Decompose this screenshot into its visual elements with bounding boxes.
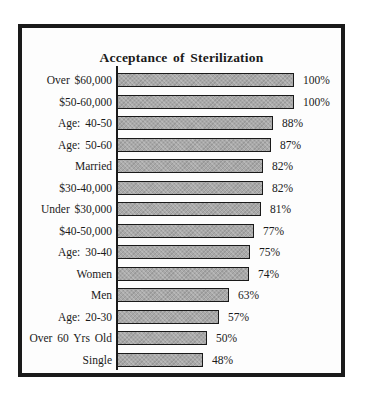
category-label: Single [83,354,112,366]
category-label: Age: 30-40 [58,246,112,258]
bar [117,159,263,173]
bar [117,245,250,259]
bar-row: Women74% [22,267,341,283]
category-label: Under $30,000 [41,203,112,215]
category-label: Married [75,160,112,172]
bar-row: $30-40,00082% [22,181,341,197]
bar [117,73,294,87]
category-label: $50-60,000 [59,96,112,108]
bar [117,353,203,367]
bar [117,116,273,130]
bar [117,267,249,281]
bar-row: $50-60,000100% [22,95,341,111]
value-label: 100% [303,96,330,108]
category-label: $40-50,000 [59,225,112,237]
bar-row: Single48% [22,353,341,369]
bar-row: Married82% [22,159,341,175]
category-label: Women [77,268,112,280]
category-label: Age: 50-60 [58,139,112,151]
bar [117,202,261,216]
value-label: 48% [212,354,233,366]
bar-row: Under $30,00081% [22,202,341,218]
value-label: 77% [263,225,284,237]
category-label: $30-40,000 [59,182,112,194]
value-label: 82% [272,182,293,194]
bar-row: Men63% [22,288,341,304]
value-label: 75% [259,246,280,258]
value-label: 82% [272,160,293,172]
value-label: 74% [258,268,279,280]
category-label: Age: 40-50 [58,117,112,129]
category-label: Age: 20-30 [58,311,112,323]
bar [117,138,271,152]
chart-title: Acceptance of Sterilization [22,50,341,66]
bar [117,95,294,109]
bar [117,310,219,324]
value-label: 100% [303,74,330,86]
value-label: 63% [238,289,259,301]
value-label: 57% [228,311,249,323]
bar-row: Age: 50-6087% [22,138,341,154]
bar-row: Age: 30-4075% [22,245,341,261]
bar-row: Age: 20-3057% [22,310,341,326]
value-label: 87% [280,139,301,151]
bar-row: Over $60,000100% [22,73,341,89]
bar [117,331,207,345]
category-label: Over 60 Yrs Old [29,332,112,344]
category-label: Men [91,289,112,301]
chart-frame: Acceptance of Sterilization Over $60,000… [18,24,345,377]
bar-row: $40-50,00077% [22,224,341,240]
bar [117,224,254,238]
bar-row: Over 60 Yrs Old50% [22,331,341,347]
category-label: Over $60,000 [47,74,112,86]
value-label: 81% [270,203,291,215]
value-label: 50% [216,332,237,344]
bar [117,288,229,302]
bar-row: Age: 40-5088% [22,116,341,132]
bar [117,181,263,195]
value-label: 88% [282,117,303,129]
